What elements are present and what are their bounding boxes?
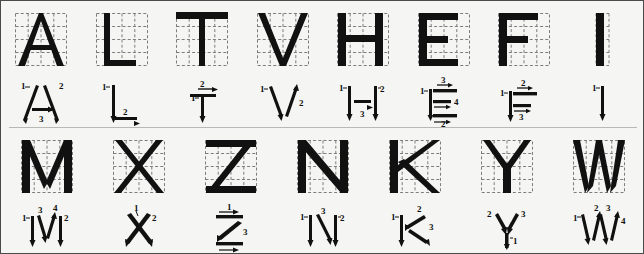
stroke-1-E: [429, 89, 432, 117]
stroke-diagram-I: 1: [574, 77, 636, 127]
glyph-I: [574, 7, 636, 75]
letter-cell-Z: 1 3: [185, 128, 277, 254]
glyph-area-A: [1, 7, 82, 75]
stroke-1-arrowhead-V: [277, 114, 283, 121]
stroke-2-L: [115, 117, 137, 120]
stroke-number-Y-2: 2: [487, 209, 492, 219]
stroke-2-H: [374, 86, 377, 116]
stroke-1-K: [400, 215, 403, 242]
stroke-number-E-2: 2: [441, 119, 446, 127]
stroke-number-Y-1: 1: [513, 236, 518, 246]
glyph-area-X: [93, 134, 185, 202]
stroke-4-W: [610, 214, 619, 241]
letter-cell-K: 1 2 3: [369, 128, 461, 254]
stroke-1-arrowhead-T: [200, 116, 206, 123]
stroke-2-arrowhead-F: [528, 86, 533, 91]
stroke-3-W: [599, 214, 608, 241]
stroke-area-L: 1 2: [82, 77, 163, 127]
stroke-2-A: [43, 85, 59, 121]
stroke-area-X: 1 2: [93, 204, 185, 254]
stroke-number-Z-3: 3: [243, 227, 248, 237]
stroke-2-arrowhead-N: [333, 240, 339, 247]
stroke-3-N: [316, 214, 332, 241]
letter-cell-V: 1 2: [243, 1, 324, 128]
stroke-1-I: [601, 86, 604, 116]
glyph-area-E: [404, 7, 485, 75]
stroke-area-N: 1 2 3: [277, 204, 369, 254]
stroke-number-M-1: 1: [22, 213, 27, 223]
glyph-Z: [200, 134, 262, 202]
stroke-2-E: [433, 114, 457, 117]
glyph-area-V: [243, 7, 324, 75]
stroke-number-X-2: 2: [152, 213, 157, 223]
letter-cell-W: 1 2 3 4: [553, 128, 644, 254]
stroke-diagram-L: 1 2: [91, 77, 153, 127]
stroke-area-K: 1 2 3: [369, 204, 461, 254]
stroke-2-Z: [216, 242, 243, 245]
stroke-number-E-4: 4: [454, 97, 459, 107]
glyph-ink-I: [596, 13, 604, 66]
stroke-area-H: 1 2 3: [323, 77, 404, 127]
letter-cell-N: 1 2 3: [277, 128, 369, 254]
stroke-diagram-A: 1 2 3: [10, 77, 72, 127]
stroke-3-arrowhead-H: [367, 105, 373, 110]
stroke-number-I-1: 1: [592, 83, 597, 93]
stroke-4-arrowhead-E: [446, 105, 451, 109]
glyph-X: [108, 134, 170, 202]
letter-row-2: 1 2 3 4: [1, 128, 644, 254]
stroke-2-F: [513, 92, 537, 95]
stroke-3-arrowhead-F: [526, 109, 531, 113]
stroke-number-F-3: 3: [519, 112, 524, 122]
stroke-number-M-2: 2: [64, 213, 69, 223]
stroke-area-F: 1 2 3: [484, 77, 565, 127]
glyph-E: [413, 7, 475, 75]
stroke-diagram-W: 1 2 3 4: [568, 204, 630, 254]
stroke-area-W: 1 2 3 4: [553, 204, 644, 254]
stroke-1-F: [509, 91, 512, 117]
stroke-1-arrowhead-Y: [504, 244, 510, 250]
stroke-diagram-F: 1 2 3: [493, 77, 555, 127]
stroke-number-A-1: 1: [21, 81, 26, 91]
stroke-2-arrowhead-H: [373, 114, 379, 121]
stroke-2-arrowhead-Z: [233, 248, 239, 253]
stroke-diagram-T: 1 2: [171, 77, 233, 127]
stroke-number-T-2: 2: [200, 79, 205, 89]
stroke-3-Z: [218, 221, 242, 240]
stroke-area-A: 1 2 3: [1, 77, 82, 127]
stroke-3-arrowhead-N: [327, 238, 333, 245]
glyph-area-L: [82, 7, 163, 75]
stroke-number-N-2: 2: [340, 213, 345, 223]
stroke-4-arrowhead-W: [614, 211, 620, 218]
glyph-area-H: [323, 7, 404, 75]
stroke-number-L-2: 2: [123, 107, 128, 117]
stroke-2-M: [59, 216, 62, 242]
stroke-diagram-E: 1 3 4 2: [413, 77, 475, 127]
stroke-number-K-1: 1: [391, 212, 396, 222]
letter-cell-I: 1: [565, 1, 644, 128]
stroke-number-K-3: 3: [429, 222, 434, 232]
stroke-diagram-X: 1 2: [108, 204, 170, 254]
stroke-number-E-1: 1: [420, 86, 425, 96]
glyph-area-M: [1, 134, 93, 202]
stroke-number-X-1: 1: [134, 204, 139, 213]
stroke-area-I: 1: [565, 77, 644, 127]
stroke-diagram-K: 1 2 3: [384, 204, 446, 254]
glyph-K: [384, 134, 446, 202]
stroke-number-N-3: 3: [321, 206, 326, 216]
stroke-1-arrowhead-W: [585, 238, 591, 245]
stroke-number-W-3: 3: [606, 204, 611, 213]
glyph-ink-H: [338, 13, 383, 66]
letter-cell-H: 1 2 3: [323, 1, 404, 128]
stroke-diagram-N: 1 2 3: [292, 204, 354, 254]
stroke-number-A-3: 3: [39, 114, 44, 124]
stroke-number-H-3: 3: [360, 109, 365, 119]
letter-cell-T: 1 2: [162, 1, 243, 128]
glyph-V: [252, 7, 314, 75]
glyph-area-F: [484, 7, 565, 75]
stroke-4-arrowhead-M: [51, 212, 57, 219]
letter-row-1: 1 2 3: [1, 1, 644, 128]
stroke-1-arrowhead-I: [599, 114, 605, 121]
stroke-1-arrowhead-F: [508, 115, 514, 122]
stroke-1-arrowhead-Z: [233, 210, 239, 215]
stroke-number-Y-3: 3: [521, 209, 526, 219]
